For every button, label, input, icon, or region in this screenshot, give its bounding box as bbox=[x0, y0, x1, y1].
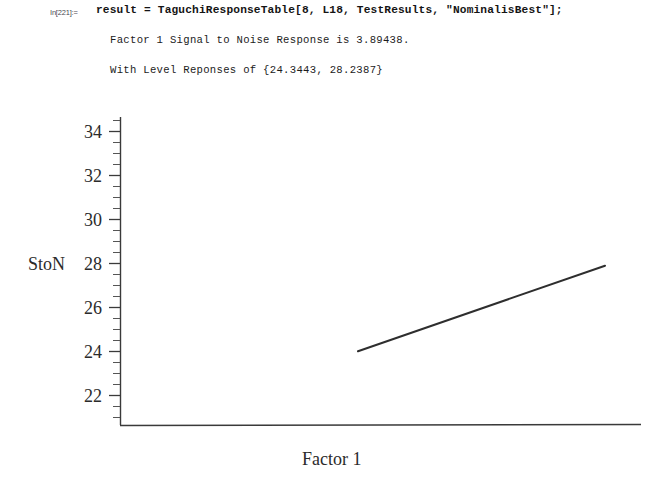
y-tick-label-26: 26 bbox=[84, 298, 102, 318]
output-line-level-responses: With Level Reponses of {24.3443, 28.2387… bbox=[110, 64, 383, 76]
y-axis-title: StoN bbox=[28, 254, 65, 274]
response-data-line bbox=[358, 266, 605, 352]
plot-svg: 34 32 30 28 26 24 22 StoN Factor 1 bbox=[0, 95, 655, 477]
y-tick-label-24: 24 bbox=[84, 342, 102, 362]
y-axis-minor-ticks bbox=[113, 121, 120, 418]
output-line-signal-to-noise: Factor 1 Signal to Noise Response is 3.8… bbox=[110, 34, 410, 46]
mathematica-notebook-canvas: In[221]:= result = TaguchiResponseTable[… bbox=[0, 0, 655, 477]
y-axis-major-ticks bbox=[109, 132, 120, 396]
y-tick-label-28: 28 bbox=[84, 254, 102, 274]
y-tick-label-30: 30 bbox=[84, 210, 102, 230]
y-tick-label-22: 22 bbox=[84, 386, 102, 406]
y-tick-label-34: 34 bbox=[84, 122, 102, 142]
y-tick-label-32: 32 bbox=[84, 166, 102, 186]
input-code-line[interactable]: result = TaguchiResponseTable[8, L18, Te… bbox=[96, 4, 563, 16]
taguchi-response-plot: 34 32 30 28 26 24 22 StoN Factor 1 bbox=[0, 95, 655, 477]
x-axis-title: Factor 1 bbox=[302, 449, 361, 469]
x-axis-line bbox=[120, 425, 641, 426]
input-prompt-label: In[221]:= bbox=[50, 8, 78, 17]
